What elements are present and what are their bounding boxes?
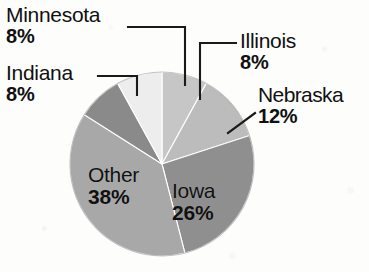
slice-label-nebraska: Nebraska 12%	[258, 84, 343, 127]
slice-label-illinois-value: 8%	[240, 52, 296, 72]
slice-label-iowa-value: 26%	[172, 202, 215, 223]
slice-label-indiana: Indiana 8%	[6, 62, 73, 105]
slice-label-minnesota-value: 8%	[6, 26, 100, 46]
slice-label-minnesota: Minnesota 8%	[6, 4, 100, 47]
slice-label-iowa: Iowa 26%	[172, 180, 215, 224]
slice-label-other: Other 38%	[88, 164, 139, 208]
slice-label-illinois: Illinois 8%	[240, 30, 296, 73]
slice-label-nebraska-name: Nebraska	[258, 84, 343, 105]
slice-label-indiana-value: 8%	[6, 84, 73, 104]
slice-label-iowa-name: Iowa	[172, 180, 215, 201]
slice-label-illinois-name: Illinois	[240, 30, 296, 51]
slice-label-minnesota-name: Minnesota	[6, 4, 100, 25]
slice-label-other-value: 38%	[88, 186, 139, 207]
pie-chart-figure: Minnesota 8% Indiana 8% Illinois 8% Nebr…	[0, 0, 369, 272]
slice-label-other-name: Other	[88, 164, 139, 185]
slice-label-indiana-name: Indiana	[6, 62, 73, 83]
slice-label-nebraska-value: 12%	[258, 106, 343, 126]
